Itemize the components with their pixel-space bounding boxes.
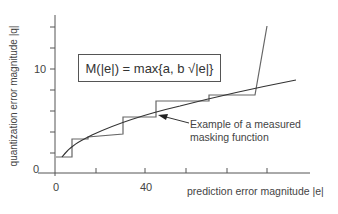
x-tick-label-40: 40: [140, 182, 152, 193]
formula-box: M(|e|) = max{a, b √|e|}: [78, 54, 221, 82]
x-axis-label: prediction error magnitude |e|: [187, 186, 324, 197]
annotation-arrow-line: [166, 117, 189, 123]
annotation-text: Example of a measured masking function: [190, 118, 301, 144]
x-tick-label-0: 0: [53, 182, 59, 193]
formula-text: M(|e|) = max{a, b √|e|}: [86, 61, 214, 76]
x-ticks: [96, 168, 267, 173]
y-tick-label-0: 0: [33, 164, 39, 175]
annotation-line-1: Example of a measured: [190, 118, 301, 131]
masking-function-chart: 10 0 0 40 prediction error magnitude |e|…: [0, 0, 338, 214]
y-tick-label-10: 10: [34, 64, 46, 75]
arrowhead-icon: [158, 114, 168, 120]
annotation-line-2: masking function: [190, 131, 301, 144]
plot-area: [0, 0, 338, 214]
y-ticks: [50, 27, 55, 153]
y-axis-label: quantization error magnitude |q|: [8, 26, 19, 167]
